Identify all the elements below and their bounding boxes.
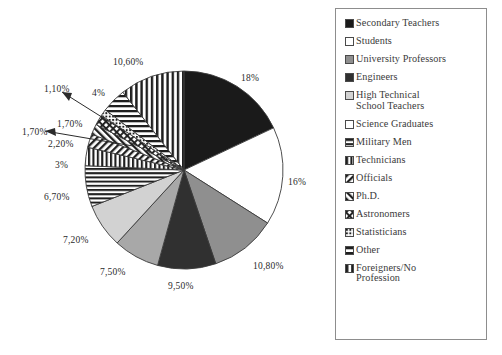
legend-item-label: Engineers — [356, 72, 398, 83]
legend-item-label: Foreigners/NoProfession — [356, 263, 416, 284]
legend-swatch-icon — [345, 210, 354, 219]
legend-swatch-icon — [345, 192, 354, 201]
legend-swatch-icon — [345, 19, 354, 28]
legend-item-university-professors[interactable]: University Professors — [345, 54, 486, 65]
slice-label-officials: 2,20% — [48, 139, 74, 149]
slice-label-students: 16% — [288, 177, 306, 187]
slice-label-university-professors: 10,80% — [253, 261, 284, 271]
legend-item-label: High TechnicalSchool Teachers — [356, 90, 424, 111]
legend-item-label: Astronomers — [356, 209, 410, 220]
legend-item-foreigners-no-profession[interactable]: Foreigners/NoProfession — [345, 263, 486, 284]
legend-swatch-icon — [345, 120, 354, 129]
legend-swatch-icon — [345, 91, 354, 100]
legend-item-label: Students — [356, 36, 392, 47]
legend-swatch-icon — [345, 156, 354, 165]
pie-slices-group — [85, 71, 283, 269]
legend-item-label: Military Men — [356, 137, 412, 148]
slice-label-astronomers: 1,70% — [22, 127, 48, 137]
slice-label-statisticians: 1,10% — [44, 84, 70, 94]
legend-item-label: Science Graduates — [356, 119, 433, 130]
slice-label-science-graduates: 7,20% — [63, 235, 89, 245]
legend-item-students[interactable]: Students — [345, 36, 486, 47]
slice-label-high-technical-school-teachers: 7,50% — [100, 267, 126, 277]
slice-label-technicians: 3% — [55, 160, 68, 170]
slice-label-secondary-teachers: 18% — [241, 73, 259, 83]
legend-swatch-icon — [345, 55, 354, 64]
legend-item-label: University Professors — [356, 54, 446, 65]
slice-label-other: 4% — [92, 88, 105, 98]
legend-swatch-icon — [345, 37, 354, 46]
legend-item-engineers[interactable]: Engineers — [345, 72, 486, 83]
legend-swatch-icon — [345, 73, 354, 82]
legend-item-science-graduates[interactable]: Science Graduates — [345, 119, 486, 130]
legend-swatch-icon — [345, 174, 354, 183]
slice-label-phd: 1,70% — [57, 119, 83, 129]
legend-swatch-icon — [345, 228, 354, 237]
pie-chart-area: 18%16%10,80%9,50%7,50%7,20%6,70%3%2,20%1… — [0, 0, 330, 355]
legend-item-military-men[interactable]: Military Men — [345, 137, 486, 148]
pie-chart-svg — [0, 0, 330, 355]
legend-item-label: Other — [356, 245, 380, 256]
slice-label-foreigners: 10,60% — [113, 57, 144, 67]
legend-item-label: Technicians — [356, 155, 406, 166]
legend-swatch-icon — [345, 264, 354, 273]
slice-label-engineers: 9,50% — [168, 281, 194, 291]
legend-item-ph-d[interactable]: Ph.D. — [345, 191, 486, 202]
legend-item-label: Officials — [356, 173, 392, 184]
legend-item-label: Secondary Teachers — [356, 18, 439, 29]
legend-swatch-icon — [345, 246, 354, 255]
legend-item-officials[interactable]: Officials — [345, 173, 486, 184]
legend-item-label: Ph.D. — [356, 191, 380, 202]
chart-legend: Secondary TeachersStudentsUniversity Pro… — [335, 8, 487, 340]
pie-chart-page: 18%16%10,80%9,50%7,50%7,20%6,70%3%2,20%1… — [0, 0, 502, 355]
legend-item-secondary-teachers[interactable]: Secondary Teachers — [345, 18, 486, 29]
legend-item-technicians[interactable]: Technicians — [345, 155, 486, 166]
legend-item-astronomers[interactable]: Astronomers — [345, 209, 486, 220]
legend-swatch-icon — [345, 138, 354, 147]
slice-label-military-men: 6,70% — [44, 192, 70, 202]
legend-item-high-technical-school-teachers[interactable]: High TechnicalSchool Teachers — [345, 90, 486, 111]
legend-item-other[interactable]: Other — [345, 245, 486, 256]
legend-item-label: Statisticians — [356, 227, 407, 238]
legend-item-statisticians[interactable]: Statisticians — [345, 227, 486, 238]
